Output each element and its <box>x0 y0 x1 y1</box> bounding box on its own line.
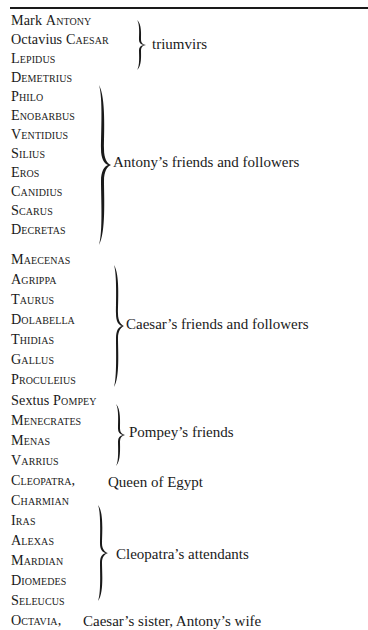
character-entry: Varrius <box>11 451 59 469</box>
character-name: Alexas <box>11 532 54 548</box>
character-entry: Alexas <box>11 531 54 549</box>
character-name: Dolabella <box>11 311 75 327</box>
group-label: Cleopatra’s attendants <box>116 545 249 563</box>
character-name: Demetrius <box>11 69 72 85</box>
brace-icon <box>97 85 112 245</box>
character-suffix: , <box>58 612 62 628</box>
character-prefix: Mark <box>11 12 46 28</box>
character-name: Caesar <box>66 31 109 47</box>
character-name: Ventidius <box>11 126 68 142</box>
character-name: Enobarbus <box>11 107 75 123</box>
character-entry: Charmian <box>11 491 69 509</box>
character-entry: Canidius <box>11 182 62 200</box>
character-name: Menecrates <box>11 412 81 428</box>
character-entry: Proculeius <box>11 370 76 388</box>
character-name: Gallus <box>11 351 54 367</box>
character-entry: Diomedes <box>11 571 67 589</box>
character-name: Diomedes <box>11 572 67 588</box>
top-rule <box>10 7 368 9</box>
character-name: Varrius <box>11 452 59 468</box>
brace-icon <box>135 20 147 70</box>
character-entry: Thidias <box>11 330 54 348</box>
character-entry: Menecrates <box>11 411 81 429</box>
group-label: Caesar’s friends and followers <box>126 315 309 333</box>
character-name: Lepidus <box>11 50 55 66</box>
character-name: Silius <box>11 145 45 161</box>
character-entry: Octavius Caesar <box>11 30 109 48</box>
character-name: Iras <box>11 512 36 528</box>
character-name: Eros <box>11 164 40 180</box>
character-entry: Eros <box>11 163 40 181</box>
character-entry: Menas <box>11 431 50 449</box>
character-name: Mardian <box>11 552 63 568</box>
character-entry: Maecenas <box>11 250 71 268</box>
character-name: Charmian <box>11 492 69 508</box>
group-label: triumvirs <box>152 35 207 53</box>
character-entry: Silius <box>11 144 45 162</box>
character-name: Pompey <box>53 392 97 408</box>
character-name: Cleopatra <box>11 472 72 488</box>
brace-icon <box>112 265 125 387</box>
character-name: Agrippa <box>11 271 57 287</box>
character-entry: Octavia, <box>11 611 61 629</box>
character-entry: Dolabella <box>11 310 75 328</box>
character-name: Menas <box>11 432 50 448</box>
character-entry: Mark Antony <box>11 11 91 29</box>
group-label: Pompey’s friends <box>129 423 234 441</box>
character-entry: Cleopatra, <box>11 471 75 489</box>
character-description: Caesar’s sister, Antony’s wife <box>83 612 261 630</box>
character-entry: Lepidus <box>11 49 55 67</box>
character-name: Maecenas <box>11 251 71 267</box>
character-entry: Iras <box>11 511 36 529</box>
character-entry: Taurus <box>11 290 54 308</box>
character-name: Octavia <box>11 612 58 628</box>
character-name: Decretas <box>11 221 66 237</box>
character-name: Antony <box>46 12 92 28</box>
character-entry: Decretas <box>11 220 66 238</box>
character-entry: Philo <box>11 87 43 105</box>
character-name: Taurus <box>11 291 54 307</box>
character-entry: Gallus <box>11 350 54 368</box>
character-entry: Seleucus <box>11 591 65 609</box>
character-name: Canidius <box>11 183 62 199</box>
character-description: Queen of Egypt <box>108 473 203 491</box>
character-entry: Agrippa <box>11 270 57 288</box>
brace-icon <box>96 505 109 601</box>
character-name: Philo <box>11 88 43 104</box>
character-entry: Enobarbus <box>11 106 75 124</box>
character-entry: Demetrius <box>11 68 72 86</box>
character-entry: Ventidius <box>11 125 68 143</box>
brace-icon <box>114 404 126 466</box>
character-prefix: Octavius <box>11 31 66 47</box>
character-prefix: Sextus <box>11 392 53 408</box>
character-name: Scarus <box>11 202 53 218</box>
character-entry: Mardian <box>11 551 63 569</box>
character-name: Proculeius <box>11 371 76 387</box>
character-entry: Sextus Pompey <box>11 391 97 409</box>
character-name: Seleucus <box>11 592 65 608</box>
character-entry: Scarus <box>11 201 53 219</box>
character-suffix: , <box>72 472 76 488</box>
character-name: Thidias <box>11 331 54 347</box>
group-label: Antony’s friends and followers <box>113 153 299 171</box>
